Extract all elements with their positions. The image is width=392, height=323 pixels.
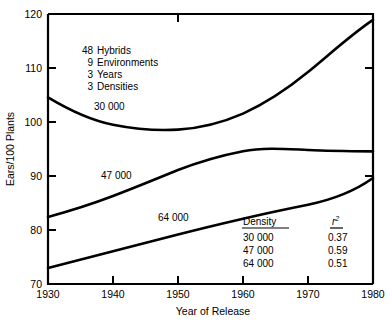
- y-tick-label-120: 120: [24, 8, 42, 20]
- legend-row-density-3: 64 000: [243, 258, 274, 269]
- legend-row-r2-3: 0.51: [328, 258, 348, 269]
- legend-header-density: Density: [243, 216, 276, 227]
- y-tick-label-100: 100: [24, 116, 42, 128]
- note-count-densities: 3: [87, 81, 93, 92]
- x-tick-label-1960: 1960: [231, 288, 255, 300]
- x-tick-label-1980: 1980: [361, 288, 385, 300]
- legend-row-r2-2: 0.59: [328, 245, 348, 256]
- series-label-64000: 64 000: [158, 212, 189, 223]
- ears-per-100-plants-line-chart: 70 80 90 100 110 120 1930 1940 1950 1960…: [0, 0, 392, 323]
- x-tick-label-1970: 1970: [296, 288, 320, 300]
- y-axis-title: Ears/100 Plants: [4, 112, 16, 186]
- note-item-densities: Densities: [97, 81, 138, 92]
- legend-row-density-2: 47 000: [243, 245, 274, 256]
- series-label-30000: 30 000: [94, 101, 125, 112]
- x-tick-label-1930: 1930: [36, 288, 60, 300]
- series-label-47000: 47 000: [101, 170, 132, 181]
- legend-row-r2-1: 0.37: [328, 232, 348, 243]
- y-tick-label-80: 80: [30, 224, 42, 236]
- note-count-hybrids: 48: [82, 45, 94, 56]
- x-axis-title: Year of Release: [176, 305, 250, 317]
- chart-figure: 70 80 90 100 110 120 1930 1940 1950 1960…: [0, 0, 392, 323]
- x-tick-label-1940: 1940: [101, 288, 125, 300]
- legend-row-density-1: 30 000: [243, 232, 274, 243]
- chart-background: [0, 0, 392, 323]
- x-tick-label-1950: 1950: [166, 288, 190, 300]
- note-item-hybrids: Hybrids: [97, 45, 131, 56]
- y-tick-label-110: 110: [25, 62, 42, 74]
- note-count-environments: 9: [87, 57, 93, 68]
- y-tick-label-90: 90: [30, 170, 42, 182]
- note-count-years: 3: [87, 69, 93, 80]
- note-item-environments: Environments: [97, 57, 158, 68]
- note-item-years: Years: [97, 69, 122, 80]
